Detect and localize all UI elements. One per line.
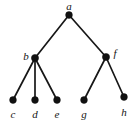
tree-diagram: abfcdegh [0, 0, 138, 122]
node-label-g: g [81, 109, 87, 120]
node-b[interactable] [31, 54, 38, 61]
node-a[interactable] [66, 12, 73, 19]
node-label-h: h [121, 107, 127, 118]
edge-f-g [84, 57, 106, 100]
node-label-a: a [66, 1, 72, 12]
edge-f-h [106, 57, 124, 97]
node-label-d: d [32, 109, 38, 120]
node-label-f: f [113, 48, 116, 59]
node-label-b: b [23, 51, 29, 62]
node-c[interactable] [10, 97, 17, 104]
node-f[interactable] [102, 53, 109, 60]
edge-b-c [13, 58, 35, 100]
edge-a-b [35, 15, 69, 58]
node-label-c: c [11, 109, 16, 120]
edge-a-f [69, 15, 106, 57]
tree-graphic [0, 0, 138, 122]
node-g[interactable] [81, 97, 88, 104]
node-e[interactable] [54, 97, 61, 104]
edge-b-e [35, 58, 57, 100]
node-d[interactable] [32, 97, 39, 104]
node-h[interactable] [121, 94, 128, 101]
node-label-e: e [55, 109, 60, 120]
